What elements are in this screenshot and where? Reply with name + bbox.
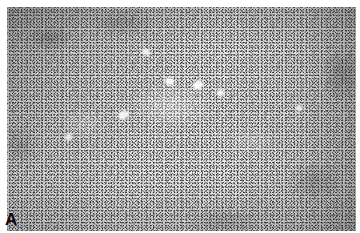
nuclear-stipple-layer-primary [7, 7, 356, 231]
cellularity-mottle-layer [7, 7, 356, 231]
figure-panel: A [0, 0, 360, 233]
cleft-right-mid [218, 91, 224, 96]
cleft-far-right [296, 105, 301, 110]
cleft-center-left [118, 111, 129, 121]
cleft-center-upper [165, 78, 173, 85]
spindle-fascicle-layer-2 [7, 7, 356, 231]
spindle-fascicle-layer-1 [7, 7, 356, 231]
panel-label: A [5, 211, 17, 228]
nuclear-stipple-layer-secondary [7, 7, 356, 231]
cleft-upper-mid [143, 48, 150, 55]
micrograph-plate [7, 7, 356, 231]
micrograph-image [7, 7, 356, 231]
cleft-lower-left [66, 133, 72, 139]
edge-vignette-layer [7, 7, 356, 231]
spindle-fascicle-layer-3 [7, 7, 356, 231]
scan-grain-layer [7, 7, 356, 231]
cleft-center-right [194, 80, 204, 89]
